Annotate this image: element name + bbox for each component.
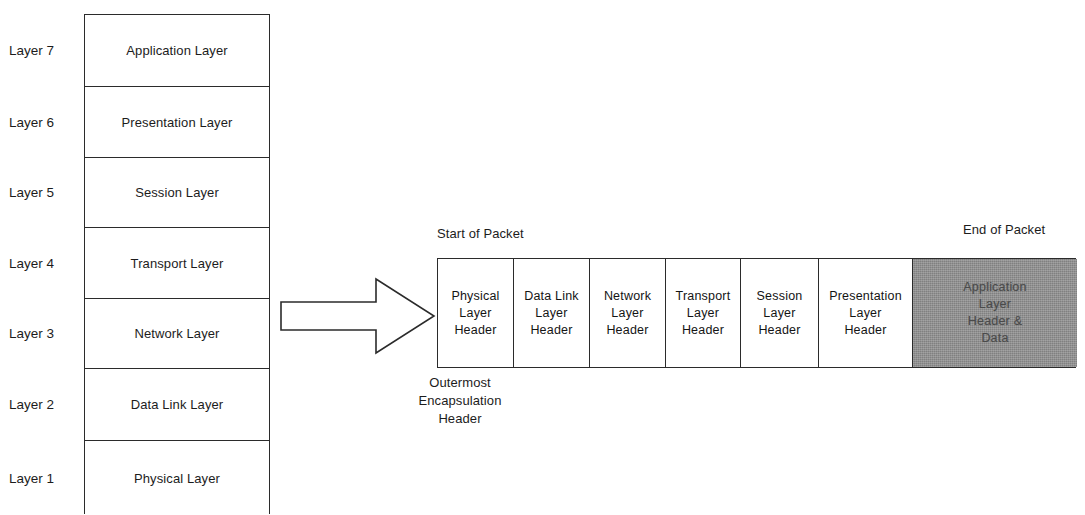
packet-cell-text-line3: Header (682, 322, 724, 339)
outermost-label-line-3: Header (400, 410, 520, 428)
osi-layer-name: Application Layer (126, 43, 227, 58)
packet-cell-text-line1: Network (604, 288, 651, 305)
osi-layer-stack: Layer 7Application LayerLayer 6Presentat… (84, 14, 270, 514)
osi-layer-name: Data Link Layer (131, 397, 224, 412)
packet-cell-text-line2: Layer (611, 305, 643, 322)
packet-cell-text-line1: Data Link (524, 288, 579, 305)
osi-layer-index-label: Layer 4 (1, 256, 79, 271)
osi-layer-row: Layer 6Presentation Layer (85, 87, 269, 158)
outermost-encapsulation-header-label: Outermost Encapsulation Header (400, 374, 520, 428)
packet-cell-text-line1: Presentation (829, 288, 902, 305)
osi-layer-name: Transport Layer (131, 256, 224, 271)
packet-cell-row: PhysicalLayerHeaderData LinkLayerHeaderN… (437, 258, 1076, 368)
outermost-label-line-2: Encapsulation (400, 392, 520, 410)
packet-cell-text-line3: Header (530, 322, 572, 339)
osi-layer-index-label: Layer 7 (1, 43, 79, 58)
packet-cell-text-line3: Header (844, 322, 886, 339)
osi-layer-index-label: Layer 2 (1, 397, 79, 412)
packet-cell-text-line2: Layer (979, 296, 1011, 313)
start-of-packet-label: Start of Packet (437, 226, 524, 241)
osi-layer-name: Presentation Layer (122, 115, 233, 130)
packet-cell-header: NetworkLayerHeader (590, 259, 666, 367)
encapsulation-flow-arrow (280, 277, 436, 355)
packet-cell-text-line4: Data (981, 330, 1008, 347)
packet-cell-application-data: ApplicationLayerHeader &Data (913, 259, 1077, 367)
osi-layer-name: Network Layer (134, 326, 219, 341)
packet-cell-header: PhysicalLayerHeader (438, 259, 514, 367)
osi-layer-index-label: Layer 6 (1, 115, 79, 130)
osi-layer-name: Physical Layer (134, 471, 220, 486)
packet-cell-header: SessionLayerHeader (741, 259, 819, 367)
osi-layer-row: Layer 7Application Layer (85, 15, 269, 87)
osi-layer-index-label: Layer 3 (1, 326, 79, 341)
osi-layer-index-label: Layer 1 (1, 471, 79, 486)
end-of-packet-label: End of Packet (963, 222, 1045, 237)
packet-cell-header: PresentationLayerHeader (819, 259, 913, 367)
packet-cell-text-line1: Physical (451, 288, 499, 305)
osi-layer-row: Layer 3Network Layer (85, 299, 269, 369)
osi-layer-row: Layer 1Physical Layer (85, 441, 269, 515)
osi-layer-index-label: Layer 5 (1, 185, 79, 200)
packet-cell-text-line1: Application (963, 279, 1026, 296)
packet-cell-header: Data LinkLayerHeader (514, 259, 590, 367)
packet-cell-text-line2: Layer (687, 305, 719, 322)
packet-cell-text-line3: Header (758, 322, 800, 339)
packet-cell-text-line2: Layer (849, 305, 881, 322)
packet-cell-text-line3: Header (606, 322, 648, 339)
osi-layer-row: Layer 2Data Link Layer (85, 369, 269, 441)
packet-cell-text-line2: Layer (763, 305, 795, 322)
osi-layer-row: Layer 5Session Layer (85, 158, 269, 228)
packet-cell-text-line3: Header & (968, 313, 1022, 330)
outermost-label-line-1: Outermost (400, 374, 520, 392)
packet-cell-header: TransportLayerHeader (666, 259, 741, 367)
packet-diagram: PhysicalLayerHeaderData LinkLayerHeaderN… (437, 258, 1076, 368)
osi-layer-name: Session Layer (135, 185, 219, 200)
packet-cell-text-line1: Session (757, 288, 803, 305)
packet-cell-text-line3: Header (454, 322, 496, 339)
packet-cell-text-line1: Transport (676, 288, 731, 305)
packet-cell-text-line2: Layer (535, 305, 567, 322)
osi-layer-row: Layer 4Transport Layer (85, 228, 269, 299)
packet-cell-text-line2: Layer (459, 305, 491, 322)
